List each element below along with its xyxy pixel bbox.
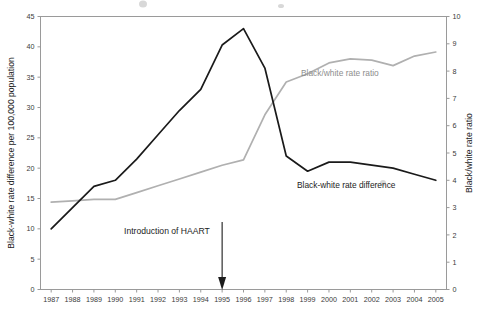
x-tick-label: 2002 bbox=[364, 295, 380, 304]
x-tick-label: 1999 bbox=[300, 295, 316, 304]
right-tick-label: 0 bbox=[453, 285, 457, 294]
x-tick-label: 2001 bbox=[342, 295, 358, 304]
x-tick-label: 1995 bbox=[214, 295, 230, 304]
right-axis-title: Black/white rate ratio bbox=[464, 113, 474, 193]
x-tick-label: 1991 bbox=[129, 295, 145, 304]
x-tick-label: 1998 bbox=[278, 295, 294, 304]
chart-figure: 051015202530354045 012345678910 19871988… bbox=[0, 0, 482, 312]
x-tick-label: 1994 bbox=[193, 295, 209, 304]
right-tick-label: 7 bbox=[453, 94, 457, 103]
x-tick-label: 2004 bbox=[406, 295, 422, 304]
x-tick-label: 1990 bbox=[107, 295, 123, 304]
left-tick-label: 40 bbox=[27, 42, 35, 51]
scan-artifact bbox=[139, 1, 147, 8]
left-tick-label: 10 bbox=[27, 224, 35, 233]
series-label-difference: Black-white rate difference bbox=[297, 180, 396, 190]
series-label-ratio: Black/white rate ratio bbox=[301, 68, 379, 78]
right-tick-label: 5 bbox=[453, 149, 457, 158]
left-tick-label: 20 bbox=[27, 164, 35, 173]
right-tick-label: 9 bbox=[453, 39, 457, 48]
x-tick-label: 1996 bbox=[236, 295, 252, 304]
left-tick-label: 5 bbox=[31, 255, 35, 264]
left-tick-label: 35 bbox=[27, 73, 35, 82]
plot-frame bbox=[41, 17, 447, 290]
x-tick-label: 1993 bbox=[171, 295, 187, 304]
left-tick-label: 15 bbox=[27, 194, 35, 203]
x-axis-tick-labels: 1987198819891990199119921993199419951996… bbox=[43, 295, 444, 304]
annotation-arrow-head bbox=[218, 277, 226, 290]
right-tick-label: 4 bbox=[453, 176, 457, 185]
scan-artifact bbox=[278, 4, 284, 8]
left-axis-title: Black-white rate difference per 100,000 … bbox=[6, 57, 16, 249]
left-axis-tick-labels: 051015202530354045 bbox=[27, 12, 35, 294]
x-tick-label: 2000 bbox=[321, 295, 337, 304]
right-tick-label: 3 bbox=[453, 203, 457, 212]
right-tick-label: 6 bbox=[453, 121, 457, 130]
x-tick-label: 2005 bbox=[428, 295, 444, 304]
right-tick-label: 8 bbox=[453, 67, 457, 76]
left-tick-label: 0 bbox=[31, 285, 35, 294]
x-tick-label: 1997 bbox=[257, 295, 273, 304]
x-tick-label: 1992 bbox=[150, 295, 166, 304]
right-tick-label: 10 bbox=[453, 12, 461, 21]
annotation-label-haart: Introduction of HAART bbox=[124, 226, 211, 236]
left-tick-label: 30 bbox=[27, 103, 35, 112]
right-axis-tick-labels: 012345678910 bbox=[453, 12, 461, 294]
x-tick-label: 1989 bbox=[86, 295, 102, 304]
right-tick-label: 1 bbox=[453, 258, 457, 267]
left-tick-label: 25 bbox=[27, 133, 35, 142]
line-chart: 051015202530354045 012345678910 19871988… bbox=[0, 0, 482, 312]
right-tick-label: 2 bbox=[453, 231, 457, 240]
x-tick-label: 2003 bbox=[385, 295, 401, 304]
x-tick-label: 1988 bbox=[65, 295, 81, 304]
left-tick-label: 45 bbox=[27, 12, 35, 21]
x-tick-label: 1987 bbox=[43, 295, 59, 304]
